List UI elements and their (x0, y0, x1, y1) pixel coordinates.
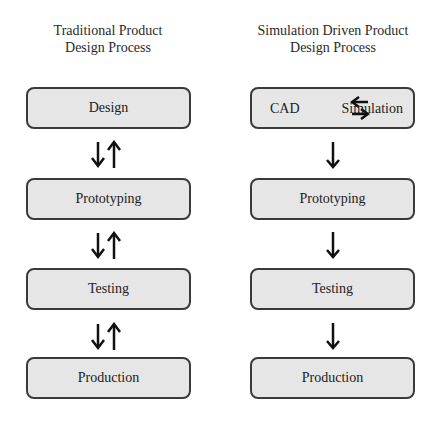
bidirectional-arrow-icon (91, 231, 123, 261)
step-label: Design (89, 100, 129, 116)
bidirectional-arrow-icon (91, 140, 123, 170)
down-arrow-icon (325, 141, 341, 169)
step-label: Production (302, 370, 363, 386)
simulation-label: Simulation (342, 101, 403, 117)
step-design: Design (26, 87, 191, 129)
cad-label: CAD (270, 101, 300, 117)
step-label: Production (78, 370, 139, 386)
step-cad-simulation: CAD Simulation (250, 87, 415, 129)
simulation-title: Simulation Driven Product Design Process (240, 22, 426, 56)
step-testing: Testing (26, 268, 191, 310)
simulation-title-line2: Design Process (240, 39, 426, 56)
step-prototyping-sim: Prototyping (250, 178, 415, 220)
traditional-title-line1: Traditional Product (26, 22, 190, 39)
down-arrow-icon (325, 231, 341, 259)
bidirectional-arrow-icon (91, 322, 123, 352)
traditional-title: Traditional Product Design Process (26, 22, 190, 56)
step-prototyping: Prototyping (26, 178, 191, 220)
step-label: Testing (312, 281, 353, 297)
simulation-title-line1: Simulation Driven Product (240, 22, 426, 39)
step-label: Prototyping (299, 191, 365, 207)
traditional-title-line2: Design Process (26, 39, 190, 56)
step-production-sim: Production (250, 357, 415, 399)
step-label: Prototyping (75, 191, 141, 207)
step-label: Testing (88, 281, 129, 297)
step-production: Production (26, 357, 191, 399)
step-testing-sim: Testing (250, 268, 415, 310)
down-arrow-icon (325, 322, 341, 350)
